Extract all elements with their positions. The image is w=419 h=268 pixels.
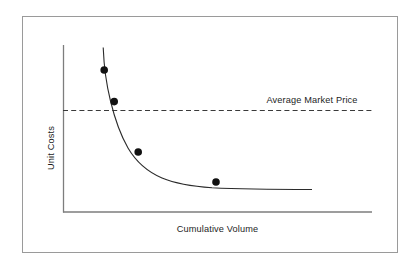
x-axis-label: Cumulative Volume bbox=[63, 224, 372, 234]
experience-curve-line bbox=[103, 48, 312, 190]
data-point bbox=[100, 66, 108, 74]
data-point bbox=[212, 178, 220, 186]
experience-curve-figure: Average Market Price Cumulative Volume U… bbox=[0, 0, 419, 268]
data-point bbox=[110, 98, 118, 106]
y-axis-label: Unit Costs bbox=[46, 126, 56, 170]
average-market-price-label: Average Market Price bbox=[252, 95, 372, 105]
data-point bbox=[134, 148, 142, 156]
